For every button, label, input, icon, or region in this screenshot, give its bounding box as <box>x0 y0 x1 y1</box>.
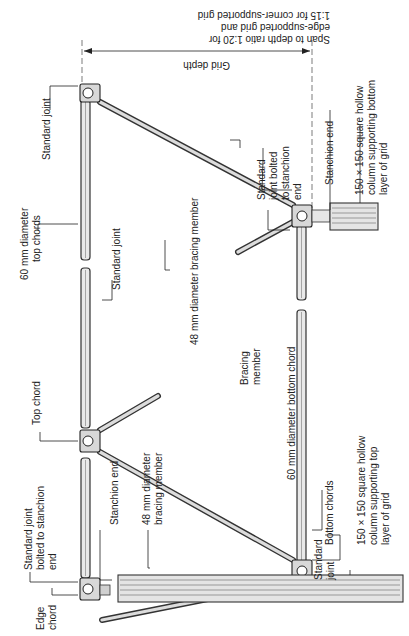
standard-joint-bottom-left <box>80 578 100 600</box>
stanchion-end-label-right: Stanchion end <box>324 121 335 185</box>
standard-joint-bottom-line1: Standard <box>313 539 324 580</box>
standard-joint-bottom-chord-right <box>292 205 312 227</box>
standard-joint-top-right <box>80 84 100 102</box>
stanchion-end-label-left: Stanchion end <box>109 461 120 525</box>
span-ratio-label-line1: Span to depth ratio 1:20 for <box>208 34 330 45</box>
top-chord-middle-segment <box>81 268 90 428</box>
standard-joint-bolted-right-line4: end <box>292 183 303 200</box>
standard-joint-label-top: Standard joint <box>41 98 52 160</box>
column-supporting-bottom-layer <box>330 203 378 230</box>
bottom-chord-60-label: 60 mm diameter bottom chord <box>286 347 297 480</box>
grid-depth-label: Grid depth <box>183 60 230 71</box>
standard-joint-label-mid: Standard joint <box>111 228 122 290</box>
bracing-member-middle <box>100 452 293 560</box>
standard-joint-bolted-left-line1: Standard joint <box>23 508 34 570</box>
standard-joint-bolted-left-line2: bolted to stanchion <box>35 486 46 570</box>
column-bottom-label-line2: column supporting bottom <box>366 80 377 195</box>
top-chords-label-line1: 60 mm diameter <box>19 207 30 280</box>
space-grid-section-diagram: Span to depth ratio 1:20 for edge-suppor… <box>0 0 409 636</box>
standard-joint-bolted-right-line1: Standard <box>256 159 267 200</box>
column-bottom-label-line1: 150 × 150 square hollow <box>354 85 365 195</box>
standard-joint-bolted-right-line2: joint bolted <box>268 152 279 201</box>
bracing-member-stub-right <box>238 222 293 252</box>
bottom-chord-lower-segment <box>297 310 306 590</box>
column-top-label-line3: layer of grid <box>380 493 391 545</box>
span-ratio-label-line3: 1:15 for corner-supported grid <box>198 10 330 21</box>
standard-joint-mid-top <box>80 430 100 452</box>
bracing-48-left-line2: bracing member <box>153 452 164 525</box>
top-chords-label-line2: top chords <box>31 215 42 262</box>
bracing-member-label-line2: member <box>251 348 262 385</box>
edge-chord-label-line2: chord <box>47 605 58 630</box>
column-top-label-line1: 150 × 150 square hollow <box>356 435 367 545</box>
bracing-48-left-line1: 48 mm diameter <box>141 452 152 525</box>
column-supporting-top-layer <box>100 575 403 602</box>
bottom-chords-label: Bottom chords <box>324 481 335 545</box>
column-bottom-label-line3: layer of grid <box>378 143 389 195</box>
bracing-member-label-line1: Bracing <box>239 351 250 385</box>
column-top-label-line2: column supporting top <box>368 446 379 545</box>
edge-chord-label-line1: Edge <box>35 606 46 630</box>
top-chord-upper-segment <box>81 100 90 260</box>
bottom-chord-upper-segment <box>297 225 306 300</box>
bracing-member-stub-mid <box>100 396 158 430</box>
stanchion-end-right <box>312 210 330 222</box>
bracing-48-center-label: 48 mm diameter bracing member <box>189 197 200 345</box>
span-ratio-label-line2: edge-supported grid and <box>221 22 330 33</box>
top-chord-label: Top chord <box>31 381 42 425</box>
standard-joint-bolted-right-line3: to stanchion <box>280 146 291 200</box>
standard-joint-bolted-left-line3: end <box>47 553 58 570</box>
top-chord-lower-segment <box>81 458 90 578</box>
standard-joint-bottom-line2: joint <box>325 561 336 581</box>
